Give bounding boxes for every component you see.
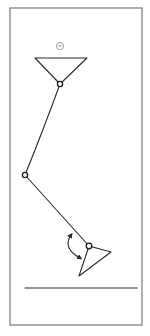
lower-link	[25, 175, 89, 246]
bottom-triangle	[79, 246, 111, 276]
circled-minus-icon	[56, 42, 63, 49]
rotation-arrow-icon	[68, 235, 80, 258]
middle-joint	[22, 172, 27, 177]
upper-link	[25, 84, 60, 175]
lower-joint	[86, 243, 92, 249]
diagram-frame	[10, 8, 142, 325]
top-triangle	[35, 58, 87, 84]
upper-joint	[57, 81, 62, 86]
linkage-diagram	[0, 0, 150, 336]
